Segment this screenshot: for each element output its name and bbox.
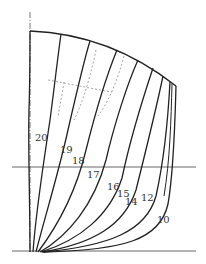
station-curve-19: [33, 34, 61, 252]
station-label-10: 10: [157, 214, 170, 225]
station-label-20: 20: [35, 132, 48, 143]
deck-line: [30, 31, 176, 86]
dashed-line: [58, 82, 64, 116]
ship-body-plan-diagram: 201918171615141210: [0, 0, 206, 264]
station-curves: [29, 31, 176, 252]
station-label-19: 19: [60, 144, 73, 155]
station-label-14: 14: [125, 196, 138, 207]
station-label-12: 12: [141, 192, 154, 203]
station-label-18: 18: [72, 155, 85, 166]
station-curve-16: [40, 60, 138, 252]
station-curve-15: [41, 68, 153, 252]
body-plan-svg: 201918171615141210: [0, 0, 206, 264]
station-label-17: 17: [87, 169, 100, 180]
